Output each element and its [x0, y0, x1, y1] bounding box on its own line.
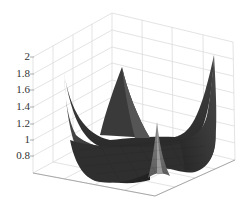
z-tick-label: 2: [4, 51, 30, 62]
z-tick-label: 1: [4, 134, 30, 145]
surface: [64, 55, 216, 183]
z-tick-label: 1.6: [4, 84, 30, 95]
surface-plot: 2 1.8 1.6 1.4 1.2 1 0.8: [0, 0, 251, 215]
z-tick-label: 1.2: [4, 118, 30, 129]
plot-canvas: [0, 0, 251, 215]
z-tick-label: 1.4: [4, 101, 30, 112]
z-tick-label: 0.8: [4, 150, 30, 161]
z-tick-label: 1.8: [4, 68, 30, 79]
